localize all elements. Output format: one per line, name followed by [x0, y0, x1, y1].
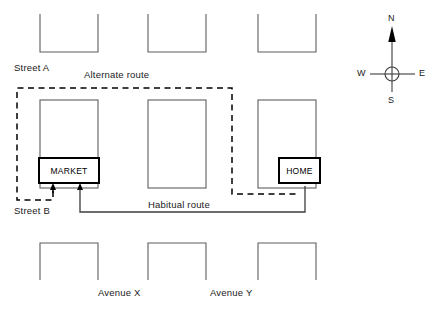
alternate-route-arrowhead	[50, 183, 56, 193]
compass-east-label: E	[419, 68, 425, 78]
habitual-route-label: Habitual route	[148, 199, 210, 210]
place-market[interactable]: MARKET	[38, 157, 100, 184]
compass-west-label: W	[357, 68, 366, 78]
block-top-right	[258, 14, 316, 52]
avenue-y-label: Avenue Y	[210, 287, 252, 298]
block-bottom-left	[40, 243, 98, 280]
block-top-center	[148, 14, 206, 52]
compass-rose	[370, 26, 415, 92]
block-bottom-right	[258, 243, 316, 280]
street-b-label: Street B	[14, 205, 50, 216]
block-top-left	[40, 14, 98, 52]
place-market-label: MARKET	[50, 166, 87, 176]
alternate-route-label: Alternate route	[84, 69, 149, 80]
compass-north-arrowhead	[388, 26, 395, 42]
diagram-canvas: MARKET HOME Street A Street B Avenue X A…	[0, 0, 437, 316]
block-bottom-center	[148, 243, 206, 280]
place-home-label: HOME	[286, 166, 313, 176]
block-group-bottom-row	[40, 243, 316, 280]
block-group-top-row	[40, 14, 316, 52]
compass-north-label: N	[388, 13, 395, 23]
compass-south-label: S	[388, 95, 394, 105]
street-a-label: Street A	[14, 62, 49, 73]
place-home[interactable]: HOME	[278, 157, 321, 184]
avenue-x-label: Avenue X	[98, 287, 141, 298]
block-mid-center	[148, 100, 206, 188]
habitual-route-arrowhead	[77, 183, 83, 190]
